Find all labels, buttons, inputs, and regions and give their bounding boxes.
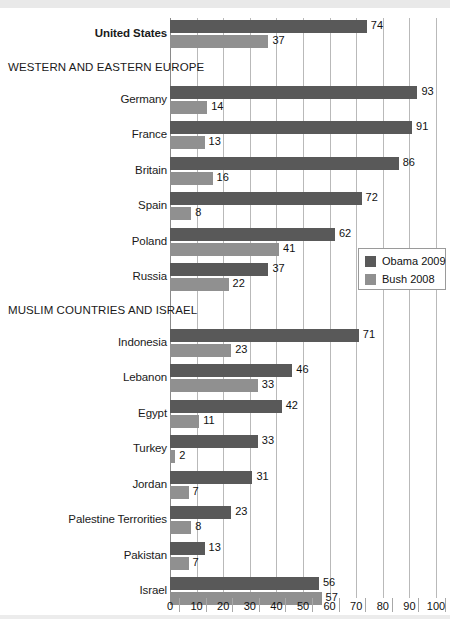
tick-mark-70 [365, 598, 366, 612]
tick-label-0: 0 [167, 600, 173, 612]
bar-obama [170, 228, 335, 241]
category-label: Pakistan [0, 549, 167, 561]
bar-obama [170, 157, 399, 170]
bar-obama [170, 435, 258, 448]
category-row: Indonesia7123 [0, 327, 450, 363]
bar-bush [170, 415, 199, 428]
tick-label-80: 80 [377, 600, 389, 612]
bar-bush [170, 379, 258, 392]
category-label: France [0, 128, 167, 140]
category-row: Spain728 [0, 190, 450, 226]
group-header-label: MUSLIM COUNTRIES AND ISRAEL [8, 304, 308, 316]
tick-label-50: 50 [297, 600, 309, 612]
bar-value-bush: 11 [203, 414, 214, 426]
category-label: Indonesia [0, 336, 167, 348]
bar-value-obama: 86 [403, 156, 415, 168]
bar-value-obama: 23 [235, 505, 247, 517]
bar-obama [170, 364, 292, 377]
bar-value-obama: 46 [296, 363, 308, 375]
bar-bush [170, 207, 191, 220]
category-row: United States7437 [0, 18, 450, 54]
tick-mark-40 [285, 598, 286, 612]
scan-artifact-bottom [0, 615, 450, 619]
category-row: Britain8616 [0, 155, 450, 191]
bar-value-obama: 37 [272, 262, 284, 274]
bar-value-bush: 22 [233, 277, 245, 289]
bar-value-obama: 56 [323, 576, 335, 588]
category-label: Egypt [0, 407, 167, 419]
legend-label-bush: Bush 2008 [382, 273, 435, 285]
bar-obama [170, 20, 367, 33]
tick-mark-90 [418, 598, 419, 612]
bar-value-bush: 7 [193, 485, 199, 497]
bar-value-bush: 23 [235, 343, 247, 355]
category-label: Poland [0, 235, 167, 247]
bar-obama [170, 400, 282, 413]
bar-bush [170, 172, 213, 185]
bar-value-bush: 8 [195, 206, 201, 218]
bar-value-obama: 33 [262, 434, 274, 446]
category-label: Spain [0, 199, 167, 211]
category-label: Turkey [0, 442, 167, 454]
bar-obama [170, 263, 268, 276]
tick-label-90: 90 [403, 600, 415, 612]
tick-mark-30 [259, 598, 260, 612]
tick-label-70: 70 [350, 600, 362, 612]
category-label: Germany [0, 93, 167, 105]
bar-value-bush: 2 [179, 449, 185, 461]
group-header-row: WESTERN AND EASTERN EUROPE [0, 54, 450, 84]
category-row: Germany9314 [0, 84, 450, 120]
bar-value-bush: 33 [262, 378, 274, 390]
category-row: Lebanon4633 [0, 362, 450, 398]
bar-value-bush: 13 [209, 135, 221, 147]
bar-value-obama: 91 [416, 120, 428, 132]
tick-mark-0 [179, 598, 180, 612]
bar-value-bush: 14 [211, 100, 223, 112]
category-label: Britain [0, 164, 167, 176]
tick-mark-60 [339, 598, 340, 612]
bar-obama [170, 471, 252, 484]
bar-value-obama: 13 [209, 541, 221, 553]
group-header-row: MUSLIM COUNTRIES AND ISRAEL [0, 297, 450, 327]
category-row: France9113 [0, 119, 450, 155]
bar-value-bush: 7 [193, 556, 199, 568]
category-label: Jordan [0, 478, 167, 490]
bar-value-obama: 93 [421, 85, 433, 97]
bar-obama [170, 329, 359, 342]
category-row: Jordan317 [0, 469, 450, 505]
category-label: United States [0, 27, 167, 39]
group-header-label: WESTERN AND EASTERN EUROPE [8, 61, 308, 73]
bar-obama [170, 86, 417, 99]
bar-obama [170, 192, 362, 205]
bar-obama [170, 506, 231, 519]
bar-value-bush: 37 [272, 34, 284, 46]
bar-bush [170, 101, 207, 114]
category-label: Lebanon [0, 371, 167, 383]
grouped-bar-chart: United States7437WESTERN AND EASTERN EUR… [0, 0, 450, 619]
category-row: Turkey332 [0, 433, 450, 469]
bar-bush [170, 486, 189, 499]
legend-item-bush: Bush 2008 [365, 272, 435, 286]
bar-value-bush: 8 [195, 520, 201, 532]
tick-label-100: 100 [427, 600, 445, 612]
chart-legend: Obama 2009 Bush 2008 [358, 248, 446, 290]
legend-swatch-bush-icon [365, 274, 376, 285]
category-label: Russia [0, 270, 167, 282]
scan-artifact-top [0, 0, 450, 8]
category-row: Egypt4211 [0, 398, 450, 434]
tick-label-10: 10 [190, 600, 202, 612]
bar-bush [170, 344, 231, 357]
tick-mark-10 [206, 598, 207, 612]
tick-label-30: 30 [244, 600, 256, 612]
bar-value-obama: 72 [366, 191, 378, 203]
bar-value-bush: 41 [283, 242, 295, 254]
tick-label-60: 60 [323, 600, 335, 612]
x-axis: 0102030405060708090100 [0, 598, 450, 616]
bar-value-obama: 74 [371, 19, 383, 31]
tick-mark-20 [232, 598, 233, 612]
bar-bush [170, 243, 279, 256]
bar-bush [170, 450, 175, 463]
tick-label-20: 20 [217, 600, 229, 612]
bar-obama [170, 121, 412, 134]
bar-value-obama: 62 [339, 227, 351, 239]
